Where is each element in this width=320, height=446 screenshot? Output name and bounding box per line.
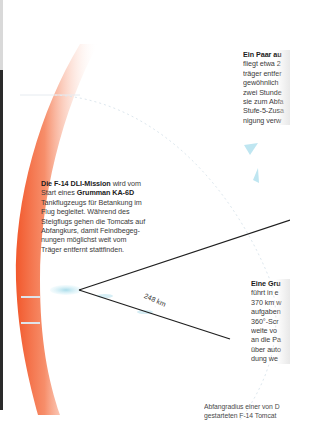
text-line: an die Pa	[251, 335, 290, 344]
text-line: Tankflugzeugs für Betankung im	[41, 198, 153, 207]
text-line: nigung verw	[243, 116, 290, 125]
text-line: träger entfer	[243, 69, 290, 78]
text-line: gewöhnlich	[243, 78, 290, 87]
text-line: Stufe-5-Zusa	[243, 106, 290, 115]
text-line: aufgaben	[251, 307, 290, 316]
aircraft-icon	[244, 143, 258, 155]
text-block-mission: Die F-14 DLI-Mission wird vom Start eine…	[41, 179, 153, 254]
block-heading: Eine Gru	[251, 279, 290, 288]
text-line: dung we	[251, 354, 290, 363]
inner-radius-arc	[55, 95, 276, 420]
text-line: Flug begleitet. Während des	[41, 207, 153, 216]
text-line: Start eines Grumman KA-6D	[41, 188, 153, 197]
text-line: Die F-14 DLI-Mission wird vom	[41, 179, 153, 188]
text-line: fliegt etwa 2	[243, 59, 290, 68]
text-line: weite vo	[251, 326, 290, 335]
text-line: zwei Stunde	[243, 88, 290, 97]
text-line: Träger entfernt stattfinden.	[41, 245, 153, 254]
text-line: Abfangkurs, damit Feindbegeg-	[41, 226, 153, 235]
block-heading: Die F-14 DLI-Mission	[41, 179, 111, 188]
caption-line: gestarteten F-14 Tomcat	[204, 411, 290, 420]
text-block-top: Ein Paar au fliegt etwa 2 träger entfer …	[243, 50, 290, 125]
text-line: 360°-Scr	[251, 317, 290, 326]
caption-line: Abfangradius einer von D	[204, 402, 290, 411]
text-line: führt in e	[251, 288, 290, 297]
text-block-bottom: Eine Gru führt in e 370 km w aufgaben 36…	[251, 279, 290, 364]
text-line: über auto	[251, 345, 290, 354]
carrier-marker	[50, 285, 82, 295]
text-line: nungen möglichst weit vom	[41, 235, 153, 244]
figure-caption: Abfangradius einer von D gestarteten F-1…	[204, 402, 290, 420]
text-line: Steigflugs gehen die Tomcats auf	[41, 217, 153, 226]
aircraft-icon	[253, 168, 259, 183]
text-line: 370 km w	[251, 298, 290, 307]
block-heading: Ein Paar au	[243, 50, 290, 59]
text-line: sie zum Abfa	[243, 97, 290, 106]
